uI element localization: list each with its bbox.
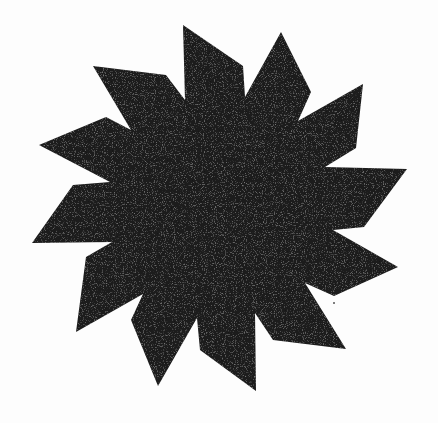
canvas: Twelve-point pinwheel star silhouette xyxy=(0,0,438,423)
star-shape xyxy=(32,25,407,391)
pinwheel-star-figure xyxy=(0,0,438,423)
speck-dot xyxy=(333,302,335,304)
